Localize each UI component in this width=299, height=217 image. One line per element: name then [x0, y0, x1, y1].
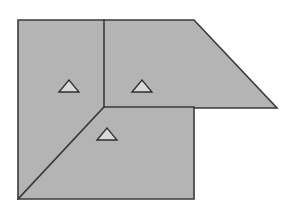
roof-plan-svg	[0, 0, 299, 217]
diagram-canvas	[0, 0, 299, 217]
